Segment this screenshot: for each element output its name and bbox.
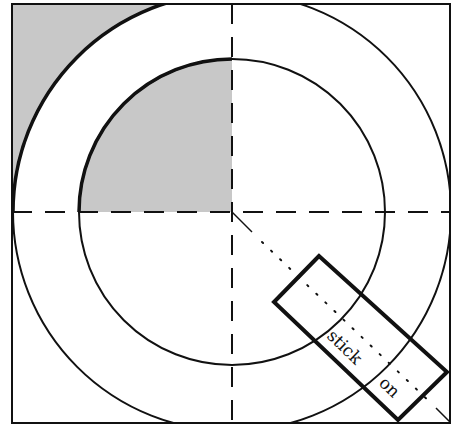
ring-diagram: stick on: [0, 0, 454, 441]
diagonal-dotted-line: [262, 242, 432, 404]
diagonal-tick-center: [232, 212, 252, 232]
strip-label-on: on: [375, 372, 404, 401]
diagonal-tick-corner: [436, 408, 450, 422]
shaded-inner-quadrant: [79, 59, 232, 212]
strip-label-stick: stick: [323, 325, 367, 368]
label-strip: [274, 256, 447, 420]
